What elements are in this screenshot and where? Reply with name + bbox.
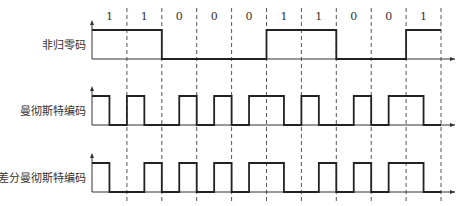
row-label: 曼彻斯特编码 (20, 104, 86, 118)
bit-label: 0 (385, 10, 392, 23)
bit-label: 0 (176, 10, 183, 23)
row-label: 差分曼彻斯特编码 (0, 171, 86, 185)
arrow-right-icon (450, 190, 455, 194)
bit-label: 1 (141, 10, 148, 23)
row-label: 非归零码 (42, 38, 86, 52)
arrow-right-icon (450, 57, 455, 61)
signal-waveform (92, 30, 441, 59)
arrow-up-icon (90, 86, 94, 91)
bit-label: 0 (350, 10, 357, 23)
bit-label: 0 (211, 10, 218, 23)
bit-label: 1 (315, 10, 322, 23)
arrow-right-icon (450, 123, 455, 127)
bit-label: 0 (246, 10, 253, 23)
bit-label: 1 (280, 10, 287, 23)
arrow-up-icon (90, 153, 94, 158)
bit-label: 1 (420, 10, 427, 23)
arrow-up-icon (90, 20, 94, 25)
bit-label: 1 (106, 10, 113, 23)
encoding-diagram: 1100011001非归零码曼彻斯特编码差分曼彻斯特编码 (0, 0, 463, 206)
